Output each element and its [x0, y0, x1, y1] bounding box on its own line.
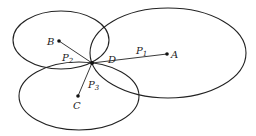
ellipse-b [13, 11, 109, 69]
label-d: D [107, 54, 116, 65]
point-d [90, 61, 94, 65]
diagram-canvas: A B C D P1 P2 P3 [0, 0, 256, 136]
point-b [57, 39, 61, 43]
point-a [165, 52, 169, 56]
segment-p1 [92, 54, 167, 63]
label-c: C [73, 100, 81, 111]
label-p3: P3 [87, 79, 100, 92]
label-p1: P1 [135, 45, 147, 58]
label-b: B [46, 36, 54, 47]
point-c [76, 94, 80, 98]
label-a: A [170, 49, 178, 60]
